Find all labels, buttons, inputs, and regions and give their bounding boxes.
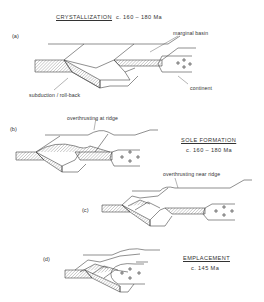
continent-markers-c xyxy=(214,205,234,217)
label-overthrusting-near-ridge: overthrusting near ridge xyxy=(163,171,220,177)
stage-a-block xyxy=(35,36,196,90)
label-marginal-basin: marginal basin xyxy=(173,30,208,36)
stage-c-block xyxy=(102,178,252,226)
continent-markers-b xyxy=(120,150,140,163)
panel-label-d: (d) xyxy=(43,256,50,262)
continent-markers-d xyxy=(120,267,141,280)
stage-b-age: c. 160 – 180 Ma xyxy=(186,147,232,153)
label-continent: continent xyxy=(190,85,212,91)
continent-markers-a xyxy=(176,58,192,69)
stage-a-age: c. 160 – 180 Ma xyxy=(116,14,162,20)
stage-b-title: SOLE FORMATION xyxy=(181,137,236,143)
panel-label-c: (c) xyxy=(82,207,89,213)
panel-label-a: (a) xyxy=(12,33,19,39)
stage-d-age: c. 145 Ma xyxy=(191,265,219,271)
panel-label-b: (b) xyxy=(10,126,17,132)
label-overthrusting-at-ridge: overthrusting at ridge xyxy=(67,115,118,121)
stage-b-block xyxy=(16,118,158,172)
stage-d-title: EMPLACEMENT xyxy=(183,255,230,261)
label-subduction-rollback: subduction / roll-back xyxy=(29,92,80,98)
stage-d-block xyxy=(65,249,160,292)
stage-a-title: CRYSTALLIZATION xyxy=(56,14,112,20)
